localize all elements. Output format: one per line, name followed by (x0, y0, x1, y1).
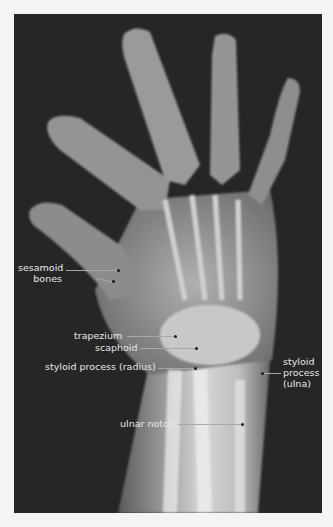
label-trapezium: trapezium (74, 330, 122, 341)
leader-styloid-radius (158, 368, 194, 369)
leader-sesamoid-1 (66, 270, 118, 271)
leader-ulnar-notch (178, 424, 241, 425)
marker-scaphoid (195, 347, 198, 350)
label-sesamoid-line2: bones (18, 273, 62, 284)
label-styloid-ulna: styloid process (ulna) (283, 356, 320, 389)
leader-trapezium (127, 336, 174, 337)
marker-ulnar-notch (241, 423, 244, 426)
marker-sesamoid-1 (117, 269, 120, 272)
label-ulnar-notch: ulnar notch (120, 418, 174, 429)
leader-scaphoid (140, 348, 195, 349)
label-styloid-ulna-line3: (ulna) (283, 378, 320, 389)
label-sesamoid-line1: sesamoid (18, 262, 62, 273)
label-styloid-ulna-line1: styloid (283, 356, 320, 367)
label-styloid-radius: styloid process (radius) (45, 361, 156, 372)
marker-trapezium (174, 335, 177, 338)
label-styloid-ulna-line2: process (283, 367, 320, 378)
label-scaphoid: scaphoid (95, 342, 138, 353)
leader-styloid-ulna (263, 373, 281, 374)
marker-styloid-ulna (261, 372, 264, 375)
marker-styloid-radius (194, 367, 197, 370)
marker-sesamoid-2 (112, 280, 115, 283)
label-sesamoid-bones: sesamoid bones (18, 262, 62, 284)
